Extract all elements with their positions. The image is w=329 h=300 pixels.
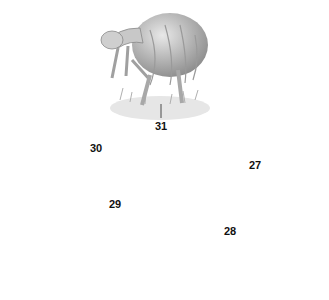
label-28: 28	[224, 226, 236, 237]
life-cycle-diagram: 31 27 28 29 30	[0, 0, 329, 300]
label-29: 29	[109, 199, 121, 210]
label-31: 31	[155, 121, 167, 132]
label-27: 27	[249, 160, 261, 171]
label-30: 30	[90, 143, 102, 154]
human-host-illustration	[101, 13, 210, 120]
